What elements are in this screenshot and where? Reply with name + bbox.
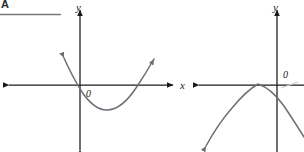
figure-canvas: A y x 0 y 0 xyxy=(0,0,304,152)
figure-letter: A xyxy=(1,0,9,10)
left-y-axis-label: y xyxy=(75,1,81,13)
right-origin-label: 0 xyxy=(283,69,288,80)
left-x-axis-label: x xyxy=(179,79,185,91)
background xyxy=(0,0,304,152)
left-origin-label: 0 xyxy=(86,88,91,99)
right-y-axis-label: y xyxy=(272,1,278,13)
